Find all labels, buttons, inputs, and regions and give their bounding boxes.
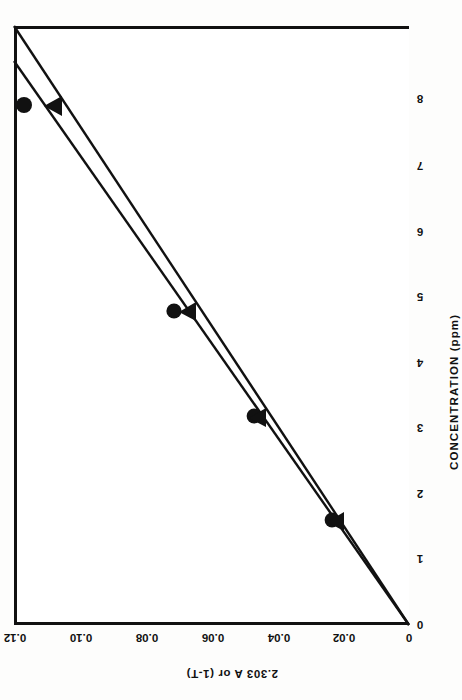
x-axis-tick-2: 2 [412,488,428,500]
x-axis-tick-4: 4 [412,357,428,369]
x-axis-tick-0: 0 [412,619,428,631]
data-point-triangle [179,302,196,321]
y-axis-tick-0.10: 0.10 [68,632,94,644]
x-axis-tick-8: 8 [412,93,428,105]
y-axis-tick-0.04: 0.04 [266,632,292,644]
y-axis-tick-0.06: 0.06 [200,632,226,644]
x-axis-tick-5: 5 [412,291,428,303]
y-axis-tick-0.08: 0.08 [134,632,160,644]
series-transmittance-markers [44,96,344,531]
data-point-triangle [44,96,62,116]
x-axis-title: CONCENTRATION (ppm) [448,314,460,470]
figure-canvas: 0.12 0.10 0.08 0.06 0.04 0.02 0 0 1 2 3 … [0,0,462,700]
fit-line-absorbance [14,26,409,625]
data-point-circle [166,303,181,318]
y-axis-tick-0.12: 0.12 [2,632,28,644]
y-axis-title: 2.303 A or (1-T) [92,668,372,680]
data-point-circle [16,97,32,113]
y-axis-tick-0: 0 [400,632,418,644]
plot-data-layer [0,0,462,700]
y-axis-tick-0.02: 0.02 [331,632,357,644]
x-axis-tick-3: 3 [412,422,428,434]
fit-line-transmittance [14,61,409,625]
series-absorbance-markers [16,97,339,527]
x-axis-tick-6: 6 [412,226,428,238]
x-axis-tick-1: 1 [412,553,428,565]
x-axis-tick-7: 7 [412,160,428,172]
